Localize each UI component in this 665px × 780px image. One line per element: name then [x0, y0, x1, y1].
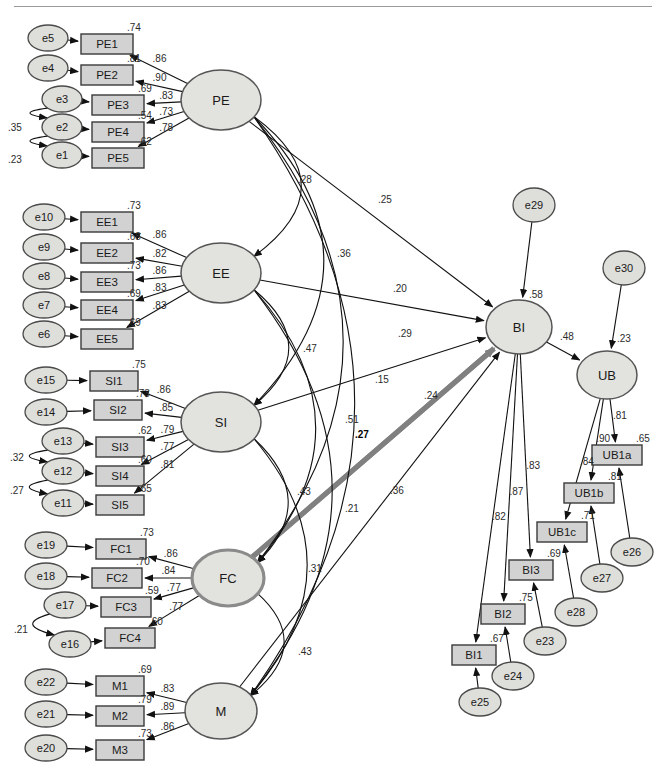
- error-label-e6: e6: [38, 328, 50, 340]
- covariance-coef-PE-M: .36: [390, 485, 404, 496]
- r2-M3: .73: [138, 728, 152, 739]
- indicator-label-M3: M3: [112, 744, 128, 756]
- path-M-to-M2: [147, 713, 185, 715]
- loading-PE-PE3: .83: [159, 90, 173, 101]
- path-M-to-BI: [240, 352, 500, 687]
- covariance-PE-SI: [254, 117, 324, 406]
- path-e13-to-SI3: [84, 443, 93, 444]
- error-label-e7: e7: [38, 299, 50, 311]
- indicator-label-EE1: EE1: [96, 216, 118, 228]
- indicator-label-PE1: PE1: [96, 38, 118, 50]
- loading-SI-SI4: .77: [160, 441, 174, 452]
- error-label-e28: e28: [567, 606, 585, 618]
- r2-UB: .23: [617, 333, 631, 344]
- indicator-label-FC2: FC2: [106, 572, 128, 584]
- path-e7-to-EE4: [65, 307, 78, 308]
- error-label-e18: e18: [37, 570, 55, 582]
- error-label-e16: e16: [61, 638, 79, 650]
- covariance-coef-PE-SI: .36: [337, 248, 351, 259]
- indicator-label-FC4: FC4: [119, 632, 141, 644]
- path-EE-to-BI: [260, 280, 484, 321]
- r2-M1: .69: [138, 664, 152, 675]
- loading-BI-BI3: .83: [526, 460, 540, 471]
- indicator-label-BI3: BI3: [522, 564, 539, 576]
- r2-BI: .58: [529, 289, 543, 300]
- loading-SI-SI2: .85: [159, 402, 173, 413]
- error-label-e27: e27: [593, 572, 611, 584]
- covariance-coef-FC-M: .43: [298, 646, 312, 657]
- r2-UB1c: .71: [581, 510, 595, 521]
- loading-EE-EE2: .82: [153, 248, 167, 259]
- path-e4-to-PE2: [68, 70, 78, 71]
- loading-FC-FC3: .77: [167, 582, 181, 593]
- indicator-label-SI2: SI2: [109, 404, 126, 416]
- loading-PE-PE2: .90: [153, 72, 167, 83]
- error-label-e24: e24: [504, 670, 522, 682]
- covariance-FC-M: [251, 593, 285, 695]
- r2-PE4: .54: [138, 110, 152, 121]
- path-e3-to-PE3: [82, 101, 89, 102]
- error-covariance-e13-e12: [29, 450, 47, 462]
- covariance-coef-EE-M: .31: [308, 563, 322, 574]
- r2-EE3: .73: [127, 260, 141, 271]
- path-e16-to-FC4: [91, 641, 102, 642]
- latent-label-EE: EE: [212, 266, 230, 281]
- loading-M-M2: .89: [160, 701, 174, 712]
- indicator-label-PE5: PE5: [107, 152, 129, 164]
- indicator-label-FC1: FC1: [110, 543, 132, 555]
- path-e23-to-BI3: [534, 583, 543, 627]
- r2-BI1: .67: [490, 633, 504, 644]
- error-label-e22: e22: [37, 676, 55, 688]
- r2-FC2: .70: [136, 556, 150, 567]
- path-e28-to-UB1c: [564, 545, 573, 598]
- indicator-label-SI5: SI5: [111, 499, 128, 511]
- coef-BI-UB: .48: [560, 331, 574, 342]
- r2-BI3: .69: [547, 548, 561, 559]
- path-e29-to-BI: [523, 222, 532, 297]
- path-e10-to-EE1: [65, 219, 78, 220]
- path-e6-to-EE5: [65, 336, 78, 337]
- coef-PE-BI: .25: [378, 194, 392, 205]
- covariance-PE-EE: [254, 117, 301, 257]
- r2-EE1: .73: [127, 200, 141, 211]
- error-label-e26: e26: [623, 546, 641, 558]
- r2-FC1: .73: [140, 527, 154, 538]
- path-e21-to-M2: [67, 715, 93, 716]
- r2-FC4: .60: [149, 616, 163, 627]
- loading-BI-BI2: .87: [509, 486, 523, 497]
- covariance-coef-e17-e16: .21: [14, 624, 28, 635]
- r2-EE2: .68: [127, 231, 141, 242]
- error-label-e21: e21: [37, 708, 55, 720]
- path-e8-to-EE3: [65, 278, 78, 279]
- error-label-e8: e8: [38, 270, 50, 282]
- error-label-e11: e11: [54, 497, 72, 509]
- covariance-coef-EE-SI: .47: [303, 343, 317, 354]
- error-label-e30: e30: [615, 262, 633, 274]
- indicator-label-PE3: PE3: [107, 99, 129, 111]
- loading-PE-PE5: .78: [159, 122, 173, 133]
- indicator-label-M2: M2: [112, 710, 128, 722]
- loading-M-M3: .86: [160, 721, 174, 732]
- indicator-label-FC3: FC3: [115, 601, 137, 613]
- indicator-label-EE3: EE3: [96, 276, 118, 288]
- indicator-label-SI3: SI3: [111, 441, 128, 453]
- path-highlight-FC-BI: [252, 349, 494, 558]
- path-SI-to-SI2: [145, 413, 182, 417]
- covariance-coef-PE-FC: .29: [398, 328, 412, 339]
- indicator-label-PE2: PE2: [96, 69, 118, 81]
- indicator-label-M1: M1: [112, 680, 128, 692]
- loading-EE-EE5: .83: [153, 300, 167, 311]
- indicator-label-PE4: PE4: [107, 126, 129, 138]
- loading-PE-PE4: .73: [159, 106, 173, 117]
- r2-M2: .79: [138, 694, 152, 705]
- latent-label-SI: SI: [215, 415, 227, 430]
- r2-BI2: .75: [519, 592, 533, 603]
- covariance-coef-e3-e2: .35: [8, 122, 22, 133]
- coef-M-BI: .21: [345, 503, 359, 514]
- r2-EE5: .69: [127, 317, 141, 328]
- r2-PE5: .62: [138, 136, 152, 147]
- coef-FC-BI: .24: [424, 390, 438, 401]
- error-label-e4: e4: [42, 62, 54, 74]
- error-label-e1: e1: [56, 149, 68, 161]
- indicator-label-EE5: EE5: [96, 333, 118, 345]
